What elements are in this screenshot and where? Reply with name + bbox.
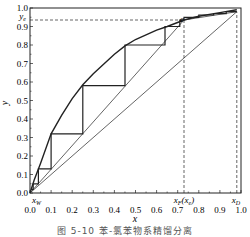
x-tick-label: 0.3 xyxy=(88,205,100,215)
y-tick-label: 0.9 xyxy=(17,22,29,32)
mccabe-thiele-chart: 0.00.10.20.30.40.50.60.70.80.91.00.00.10… xyxy=(0,0,250,237)
x-tick-label: 0.2 xyxy=(67,205,78,215)
y-tick-label: 0.1 xyxy=(17,170,28,180)
series-layer xyxy=(30,10,237,193)
y-tick-label: 0.2 xyxy=(17,151,28,161)
y-tick-label: 0.6 xyxy=(17,77,29,87)
xw-label: xW xyxy=(31,195,42,206)
y-tick-label: 0.8 xyxy=(17,40,29,50)
x-tick-label: 0.6 xyxy=(151,205,163,215)
x-tick-label: 0.1 xyxy=(45,205,56,215)
x-tick-label: 0.8 xyxy=(193,205,205,215)
y-tick-label: 0.7 xyxy=(17,59,29,69)
point-e-label: e xyxy=(180,14,184,24)
axis-ticks: 0.00.10.20.30.40.50.60.70.80.91.00.00.10… xyxy=(17,3,247,215)
operating-line-stripping--line xyxy=(30,20,184,193)
y-tick-label: 0.3 xyxy=(17,133,29,143)
x-tick-label: 0.7 xyxy=(172,205,184,215)
y-tick-label: 0.0 xyxy=(17,188,29,198)
x-tick-label: 0.9 xyxy=(214,205,226,215)
x-tick-label: 1.0 xyxy=(235,205,247,215)
y-axis-label: y xyxy=(0,100,10,106)
x-tick-label: 0.0 xyxy=(24,205,36,215)
xf-label: xF(xe) xyxy=(173,195,194,206)
y-tick-label: 0.5 xyxy=(17,96,29,106)
xd-label: xD xyxy=(231,195,241,206)
figure-caption: 图 5-10 苯-氯苯物系精馏分离 xyxy=(0,224,250,237)
y-tick-label: 0.4 xyxy=(17,114,29,124)
x-tick-label: 0.4 xyxy=(109,205,121,215)
x-axis-label: x xyxy=(132,213,138,224)
diagonal-y-x-line xyxy=(30,12,237,193)
